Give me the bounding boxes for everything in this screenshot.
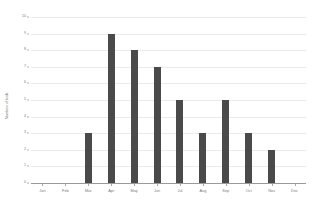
- x-axis-tick-label-may: May: [130, 189, 137, 193]
- x-axis-tick-label-nov: Nov: [268, 189, 275, 193]
- y-axis-tick-mark: [27, 17, 29, 18]
- bar-chart-figure: Numbers of birds 012345678910 JanFebMarA…: [0, 0, 319, 212]
- x-axis-tick-label-mar: Mar: [85, 189, 92, 193]
- y-axis-tick-mark: [27, 183, 29, 184]
- bar-mar[interactable]: [85, 133, 92, 183]
- x-axis-tick-mark: [203, 184, 204, 186]
- y-axis-tick-mark: [27, 133, 29, 134]
- bar-jun[interactable]: [154, 67, 161, 183]
- y-axis-tick-mark: [27, 166, 29, 167]
- x-axis-tick-label-jan: Jan: [39, 189, 45, 193]
- bar-nov[interactable]: [268, 150, 275, 183]
- y-axis-tick-label: 0: [24, 181, 26, 185]
- bar-sep[interactable]: [222, 100, 229, 183]
- x-axis-tick-mark: [134, 184, 135, 186]
- x-axis-tick-label-dec: Dec: [291, 189, 298, 193]
- bars-series: [31, 17, 306, 183]
- x-axis-tick-label-jun: Jun: [154, 189, 160, 193]
- bar-apr[interactable]: [108, 34, 115, 183]
- plot-area: [31, 17, 306, 183]
- bar-oct[interactable]: [245, 133, 252, 183]
- bar-jul[interactable]: [176, 100, 183, 183]
- y-axis-tick-mark: [27, 83, 29, 84]
- x-axis-tick-mark: [65, 184, 66, 186]
- y-axis-tick-label: 6: [24, 82, 26, 86]
- y-axis-tick-mark: [27, 100, 29, 101]
- x-axis-tick-mark: [295, 184, 296, 186]
- y-axis-tick-label: 9: [24, 32, 26, 36]
- y-axis-tick-mark: [27, 50, 29, 51]
- y-axis-tick-labels: 012345678910: [0, 17, 29, 183]
- y-axis-tick-label: 1: [24, 165, 26, 169]
- x-axis-tick-label-sep: Sep: [222, 189, 229, 193]
- y-axis-tick-label: 10: [22, 15, 26, 19]
- y-axis-tick-mark: [27, 33, 29, 34]
- x-axis-tick-mark: [180, 184, 181, 186]
- y-axis-tick-label: 3: [24, 131, 26, 135]
- x-axis-tick-mark: [88, 184, 89, 186]
- y-axis-tick-mark: [27, 116, 29, 117]
- y-axis-tick-mark: [27, 66, 29, 67]
- y-axis-tick-label: 7: [24, 65, 26, 69]
- x-axis-tick-mark: [111, 184, 112, 186]
- y-axis-tick-label: 4: [24, 115, 26, 119]
- x-axis-tick-marks: [31, 184, 306, 187]
- y-axis-tick-label: 8: [24, 48, 26, 52]
- y-axis-tick-label: 2: [24, 148, 26, 152]
- y-axis-tick-label: 5: [24, 98, 26, 102]
- bar-aug[interactable]: [199, 133, 206, 183]
- x-axis-tick-label-jul: Jul: [177, 189, 182, 193]
- x-axis-tick-mark: [226, 184, 227, 186]
- x-axis-tick-mark: [157, 184, 158, 186]
- x-axis-tick-mark: [272, 184, 273, 186]
- y-axis-tick-mark: [27, 149, 29, 150]
- x-axis-tick-label-oct: Oct: [246, 189, 252, 193]
- x-axis-tick-mark: [249, 184, 250, 186]
- x-axis-tick-mark: [42, 184, 43, 186]
- x-axis-tick-label-apr: Apr: [108, 189, 114, 193]
- x-axis-tick-labels: JanFebMarAprMayJunJulAugSepOctNovDec: [31, 189, 306, 201]
- x-axis-tick-label-feb: Feb: [62, 189, 69, 193]
- x-axis-tick-label-aug: Aug: [199, 189, 206, 193]
- bar-may[interactable]: [131, 50, 138, 183]
